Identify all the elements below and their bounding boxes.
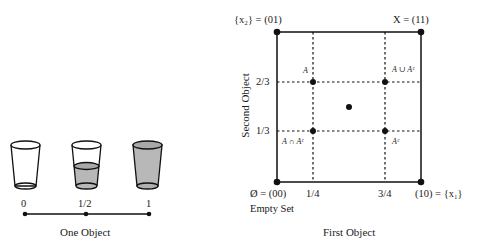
- glass-half: [72, 141, 101, 189]
- glass-full: [133, 141, 162, 189]
- corner-label-top-right: X = (11): [393, 15, 429, 26]
- corner-label-bottom-right: (10) = {x₁}: [415, 189, 463, 200]
- x-tick-three-quarter: 3/4: [378, 189, 391, 200]
- point-label-ac: Aᶜ: [392, 138, 399, 146]
- glass-label-half: 1/2: [78, 199, 91, 210]
- empty-set-label: Empty Set: [250, 204, 294, 215]
- y-tick-one-third: 1/3: [256, 126, 269, 137]
- corner-label-bottom-left: Ø = (00): [250, 189, 286, 200]
- y-tick-two-thirds: 2/3: [256, 77, 269, 88]
- one-object-line: [23, 212, 152, 217]
- point-label-a-inter-ac: A ∩ Aᶜ: [282, 138, 303, 146]
- point-label-a: A: [303, 67, 308, 75]
- glass-label-0: 0: [21, 199, 26, 210]
- unit-square: [274, 29, 425, 186]
- one-object-caption: One Object: [60, 227, 110, 238]
- glass-label-1: 1: [146, 199, 151, 210]
- y-axis-title: Second Object: [240, 66, 251, 146]
- point-label-a-union-ac: A ∪ Aᶜ: [392, 66, 414, 74]
- x-axis-title: First Object: [323, 227, 375, 238]
- corner-label-top-left: {x₂} = (01): [234, 15, 282, 26]
- glass-empty: [11, 141, 40, 189]
- x-tick-quarter: 1/4: [306, 189, 319, 200]
